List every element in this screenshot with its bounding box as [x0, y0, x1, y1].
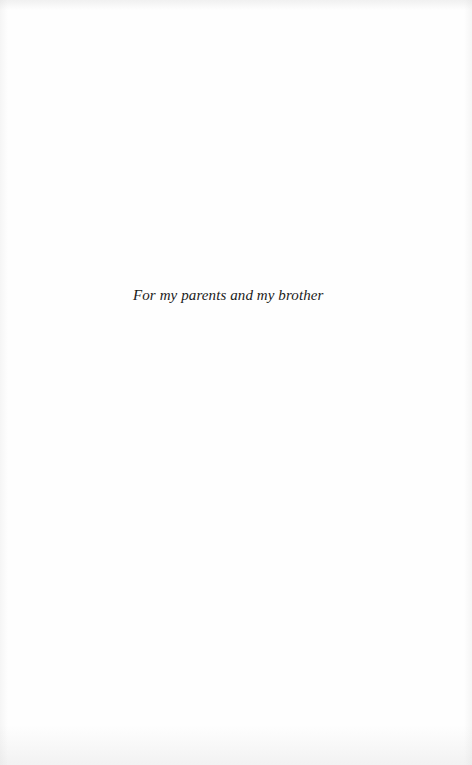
scan-edge-right [464, 0, 472, 765]
dedication-text: For my parents and my brother [133, 285, 324, 305]
book-page: For my parents and my brother [0, 0, 472, 765]
scan-edge-left [0, 0, 8, 765]
scan-edge-top [0, 0, 472, 10]
scan-edge-bottom [0, 725, 472, 765]
